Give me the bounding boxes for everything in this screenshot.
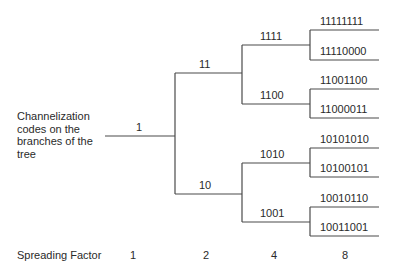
code-sf8-11111111: 11111111: [320, 15, 363, 27]
code-sf8-10101010: 10101010: [320, 133, 369, 145]
spreading-factor-8: 8: [342, 249, 348, 261]
code-sf2-11: 11: [199, 58, 210, 70]
code-sf4-1010: 1010: [260, 148, 284, 160]
spreading-factor-4: 4: [271, 249, 277, 261]
code-sf8-11001100: 11001100: [320, 74, 367, 86]
spreading-factor-2: 2: [203, 249, 209, 261]
code-root: 1: [136, 121, 142, 133]
spreading-factor-label: Spreading Factor: [17, 249, 101, 261]
code-sf2-10: 10: [199, 179, 211, 191]
code-sf8-10100101: 10100101: [320, 162, 369, 174]
code-sf8-10011001: 10011001: [320, 221, 368, 233]
code-sf8-11110000: 11110000: [320, 45, 367, 57]
code-sf4-1100: 1100: [260, 89, 284, 101]
code-sf8-11000011: 11000011: [320, 103, 367, 115]
tree-description: Channelization codes on the branches of …: [17, 110, 112, 161]
code-sf8-10010110: 10010110: [320, 192, 368, 204]
code-sf4-1001: 1001: [260, 207, 284, 219]
code-sf4-1111: 1111: [260, 30, 282, 42]
spreading-factor-1: 1: [130, 249, 136, 261]
